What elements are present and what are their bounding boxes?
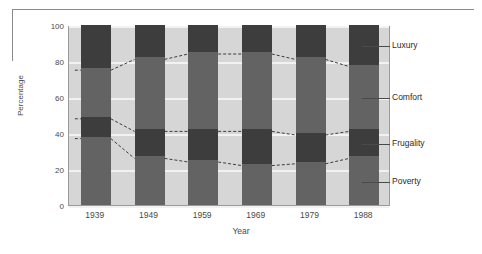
- connector-line: [272, 131, 296, 135]
- x-tick-label: 1959: [179, 210, 225, 220]
- legend-leader-line: [362, 144, 390, 145]
- y-tick-label: 20: [40, 166, 64, 175]
- x-tick-label: 1939: [72, 210, 118, 220]
- connector-line: [165, 158, 189, 162]
- connector-line: [111, 139, 135, 159]
- y-tick-label: 0: [40, 202, 64, 211]
- connector-line: [326, 158, 350, 163]
- connector-line: [272, 54, 296, 59]
- x-tick-label: 1979: [287, 210, 333, 220]
- connector-line: [165, 54, 189, 59]
- y-tick-label: 40: [40, 130, 64, 139]
- connector-line: [111, 119, 135, 132]
- legend-item-luxury[interactable]: Luxury: [392, 40, 418, 50]
- connector-line: [326, 59, 350, 66]
- left-vertical-rule: [12, 9, 13, 61]
- legend-leader-line: [362, 98, 390, 99]
- y-axis-title: Percentage: [16, 75, 25, 116]
- legend-item-frugality[interactable]: Frugality: [392, 138, 425, 148]
- legend-leader-line: [362, 182, 390, 183]
- x-tick-label: 1969: [233, 210, 279, 220]
- y-axis-ticks: 020406080100: [38, 26, 64, 206]
- gridline: [69, 206, 389, 208]
- y-tick-label: 60: [40, 94, 64, 103]
- legend-item-comfort[interactable]: Comfort: [392, 92, 422, 102]
- x-tick-label: 1988: [340, 210, 386, 220]
- legend-leader-line: [362, 46, 390, 47]
- x-tick-label: 1949: [126, 210, 172, 220]
- chart-figure: Percentage 020406080100 1939194919591969…: [0, 0, 482, 254]
- connector-line: [272, 164, 296, 166]
- connector-line: [326, 131, 350, 135]
- y-tick-label: 100: [40, 22, 64, 31]
- top-horizontal-rule: [12, 9, 474, 10]
- boundary-connector-lines: [69, 27, 389, 205]
- legend-item-poverty[interactable]: Poverty: [392, 176, 421, 186]
- connector-line: [111, 59, 135, 70]
- x-axis-title: Year: [0, 226, 482, 236]
- connector-line: [218, 162, 242, 166]
- plot-area: [68, 26, 390, 206]
- y-tick-label: 80: [40, 58, 64, 67]
